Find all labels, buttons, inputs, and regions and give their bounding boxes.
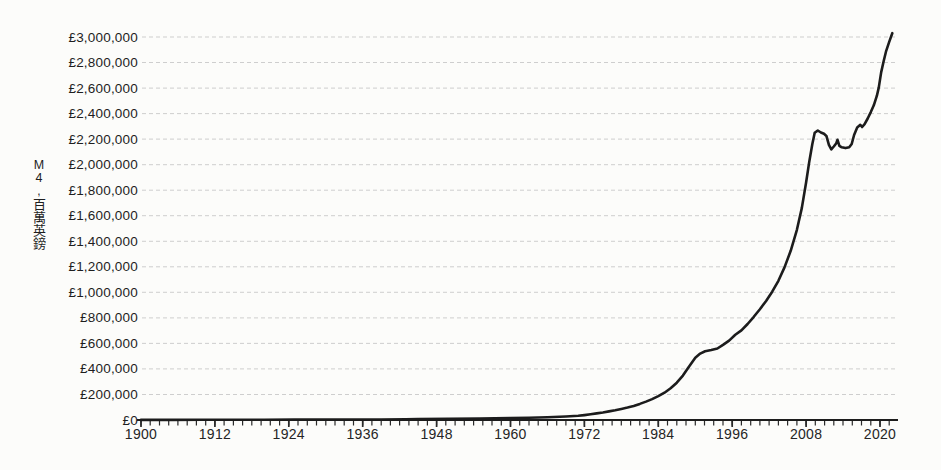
- m4-series-line: [141, 33, 892, 420]
- book-chart-page: M4,百萬英鎊 £0£200,000£400,000£600,000£800,0…: [0, 0, 941, 470]
- m4-line-chart: [0, 0, 941, 470]
